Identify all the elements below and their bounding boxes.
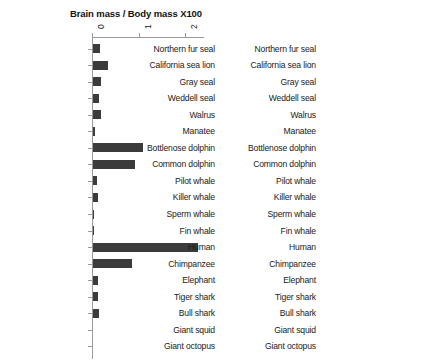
y-tick-left-3	[88, 98, 92, 99]
bar-left-manatee	[93, 127, 95, 136]
bar-left-tiger-shark	[93, 292, 98, 301]
bar-left-chimpanzee	[93, 259, 132, 268]
bar-left-human	[93, 243, 198, 252]
y-tick-left-6	[88, 148, 92, 149]
bar-left-bull-shark	[93, 309, 99, 318]
y-tick-left-16	[88, 313, 92, 314]
bar-left-common-dolphin	[93, 160, 135, 169]
y-tick-left-0	[88, 49, 92, 50]
x-tick-label-left-1: 1	[143, 24, 153, 29]
bar-left-killer-whale	[93, 193, 98, 202]
y-tick-left-14	[88, 280, 92, 281]
y-tick-left-18	[88, 346, 92, 347]
y-tick-left-12	[88, 247, 92, 248]
y-tick-left-15	[88, 297, 92, 298]
x-tick-left-0	[92, 33, 93, 37]
y-tick-left-8	[88, 181, 92, 182]
bar-left-bottlenose-dolphin	[93, 143, 143, 152]
bar-left-pilot-whale	[93, 176, 97, 185]
bar-left-northern-fur-seal	[93, 44, 100, 53]
x-tick-left-2	[185, 33, 186, 37]
bar-left-sperm-whale	[93, 210, 94, 219]
chart-panel-brain-mass: Brain mass (kg) 0246810	[215, 0, 430, 364]
y-tick-left-13	[88, 264, 92, 265]
bar-left-elephant	[93, 276, 98, 285]
x-tick-left-1	[139, 33, 140, 37]
bar-left-walrus	[93, 110, 101, 119]
y-tick-left-17	[88, 330, 92, 331]
y-tick-left-4	[88, 115, 92, 116]
y-tick-left-5	[88, 131, 92, 132]
x-tick-label-left-2: 2	[189, 24, 199, 29]
brain-mass-comparison-figure: Brain mass / Body mass X100 012 Brain ma…	[0, 0, 430, 364]
y-tick-left-10	[88, 214, 92, 215]
bar-left-weddell-seal	[93, 94, 99, 103]
chart-title-left: Brain mass / Body mass X100	[68, 8, 204, 19]
y-tick-left-2	[88, 82, 92, 83]
y-tick-left-11	[88, 231, 92, 232]
bar-left-california-sea-lion	[93, 61, 108, 70]
y-tick-left-1	[88, 65, 92, 66]
bar-left-gray-seal	[93, 77, 101, 86]
y-tick-left-7	[88, 164, 92, 165]
x-axis-line-left	[92, 37, 204, 38]
plot-area-left: 012	[92, 37, 204, 359]
x-tick-label-left-0: 0	[96, 24, 106, 29]
y-tick-left-9	[88, 197, 92, 198]
bar-left-fin-whale	[93, 226, 94, 235]
chart-panel-brain-body-ratio: Brain mass / Body mass X100 012	[0, 0, 215, 364]
